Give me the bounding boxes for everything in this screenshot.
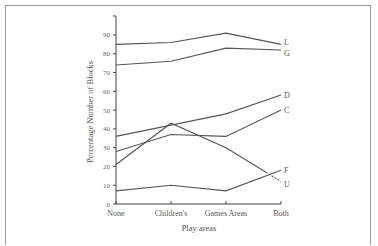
y-tick-label: 20 xyxy=(103,163,111,171)
series-label-D: D xyxy=(284,91,290,100)
series-line-F xyxy=(116,170,281,191)
series-line-C xyxy=(116,110,281,151)
y-tick-label: 60 xyxy=(103,88,111,96)
series-line-D xyxy=(116,95,281,136)
y-tick-label: 10 xyxy=(103,182,111,190)
x-tick-label: Both xyxy=(273,209,289,218)
series-label-U: U xyxy=(284,180,290,189)
y-tick-label: 0 xyxy=(107,201,111,209)
x-axis-title: Play areas xyxy=(182,223,217,233)
y-tick-label: 80 xyxy=(103,50,111,58)
y-tick-label: 40 xyxy=(103,125,111,133)
series-label-F: F xyxy=(284,166,289,175)
series-label-C: C xyxy=(284,106,289,115)
series-label-L: L xyxy=(284,38,289,47)
y-tick-label: 30 xyxy=(103,144,111,152)
series-line-L xyxy=(116,33,281,44)
series-label-G: G xyxy=(284,49,290,58)
y-axis-title: Percentage Number of Blocks xyxy=(85,61,95,163)
line-chart: 0102030405060708090NoneChildren'sGames A… xyxy=(0,0,378,246)
y-tick-label: 50 xyxy=(103,107,111,115)
y-tick-label: 70 xyxy=(103,69,111,77)
y-tick-label: 90 xyxy=(103,31,111,39)
series-labels: LGDCFU xyxy=(284,38,290,189)
series-lines xyxy=(116,33,281,191)
x-tick-label: Children's xyxy=(155,209,188,218)
series-line-U xyxy=(116,123,266,172)
series-line-G xyxy=(116,48,281,65)
x-tick-label: Games Areas xyxy=(205,209,247,218)
x-tick-label: None xyxy=(107,209,125,218)
